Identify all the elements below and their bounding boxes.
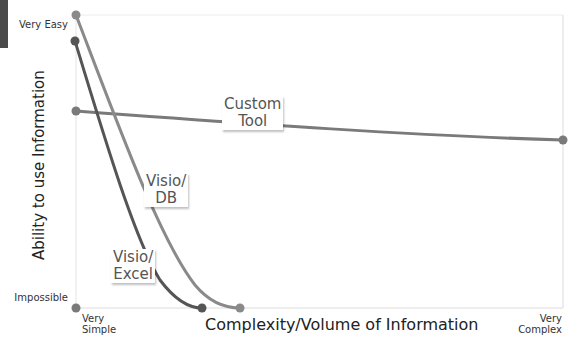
x-tick-very-complex: Very Complex	[510, 313, 562, 335]
x-tick-very-complex-line2: Complex	[510, 324, 562, 335]
series-visio-excel-start-marker	[71, 37, 80, 46]
x-tick-very-simple: Very Simple	[82, 313, 116, 335]
chart-canvas	[0, 0, 579, 351]
series-label-visio-db-line1: Visio/	[146, 173, 186, 190]
series-visio-db-start-marker	[72, 11, 81, 20]
series-label-custom-tool: Custom Tool	[222, 96, 283, 130]
series-label-visio-db: Visio/ DB	[144, 173, 188, 207]
series-label-custom-tool-line1: Custom	[224, 96, 281, 113]
series-label-visio-excel-line2: Excel	[113, 266, 153, 283]
x-tick-very-complex-line1: Very	[510, 313, 562, 324]
origin-marker	[72, 304, 81, 313]
series-custom-tool-start-marker	[72, 107, 81, 116]
series-label-custom-tool-line2: Tool	[224, 113, 281, 130]
x-axis-title: Complexity/Volume of Information	[205, 315, 478, 334]
y-tick-very-easy: Very Easy	[10, 19, 68, 30]
y-axis-title: Ability to use Information	[30, 70, 48, 260]
series-visio-db-line	[76, 15, 240, 308]
x-tick-very-simple-line1: Very	[82, 313, 116, 324]
series-label-visio-db-line2: DB	[146, 190, 186, 207]
series-custom-tool-line	[76, 111, 563, 140]
series-label-visio-excel-line1: Visio/	[113, 249, 153, 266]
series-label-visio-excel: Visio/ Excel	[111, 249, 155, 283]
x-tick-very-simple-line2: Simple	[82, 324, 116, 335]
y-tick-impossible: Impossible	[4, 292, 68, 303]
series-visio-db-end-marker	[236, 304, 245, 313]
series-custom-tool-end-marker	[559, 136, 568, 145]
series-visio-excel-end-marker	[198, 304, 207, 313]
